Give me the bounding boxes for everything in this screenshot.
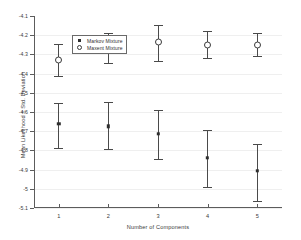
x-tick-label: 3 bbox=[156, 213, 159, 219]
error-bar-cap-upper bbox=[253, 33, 262, 34]
error-bar-cap-lower bbox=[104, 63, 113, 64]
data-point-circle bbox=[155, 38, 162, 45]
error-bar-cap-lower bbox=[54, 76, 63, 77]
legend-label-maxent: Maxent Mixture bbox=[87, 45, 123, 51]
legend-label-markov: Markov Mixture bbox=[87, 38, 123, 44]
data-point-circle bbox=[254, 41, 261, 48]
legend-item-maxent: Maxent Mixture bbox=[75, 45, 123, 51]
error-bar-cap-upper bbox=[154, 25, 163, 26]
data-point-circle bbox=[55, 57, 62, 64]
error-bar-cap-lower bbox=[154, 61, 163, 62]
error-bar-cap-lower bbox=[253, 56, 262, 57]
y-tick-label: -4.1 bbox=[19, 13, 28, 19]
square-marker-icon bbox=[75, 39, 84, 42]
error-bar-cap-upper bbox=[54, 44, 63, 45]
figure: -4.1-4.2-4.3-4.4-4.5-4.6-4.7-4.8-4.9-5-5… bbox=[0, 0, 301, 240]
y-tick bbox=[30, 208, 34, 209]
x-tick-label: 5 bbox=[256, 213, 259, 219]
error-bar-cap-lower bbox=[203, 58, 212, 59]
error-bar-cap-upper bbox=[203, 31, 212, 32]
x-axis-title: Number of Components bbox=[34, 224, 282, 230]
legend-item-markov: Markov Mixture bbox=[75, 38, 123, 44]
circle-marker-icon bbox=[75, 45, 84, 51]
y-tick-label: -4.2 bbox=[19, 32, 28, 38]
gridline bbox=[35, 208, 282, 209]
error-bar bbox=[53, 16, 64, 208]
x-tick-label: 1 bbox=[57, 213, 60, 219]
error-bar bbox=[153, 16, 164, 208]
error-bar bbox=[252, 16, 263, 208]
error-bar bbox=[202, 16, 213, 208]
x-tick-label: 4 bbox=[206, 213, 209, 219]
plot-area: -4.1-4.2-4.3-4.4-4.5-4.6-4.7-4.8-4.9-5-5… bbox=[34, 16, 282, 208]
data-point-circle bbox=[204, 41, 211, 48]
y-axis-title: Mean Likelihood ± Std. Deviation bbox=[20, 40, 26, 190]
y-tick-label: -5.1 bbox=[19, 205, 28, 211]
x-tick-label: 2 bbox=[107, 213, 110, 219]
legend: Markov Mixture Maxent Mixture bbox=[72, 35, 127, 54]
